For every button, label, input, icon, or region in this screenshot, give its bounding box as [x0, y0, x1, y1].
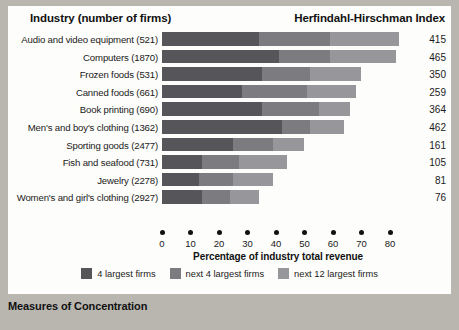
legend-4-largest: 4 largest firms [81, 268, 155, 279]
plot-area: Audio and video equipment (521)415Comput… [8, 32, 451, 224]
bar-segment [202, 155, 239, 169]
row-category-label: Audio and video equipment (521) [8, 34, 158, 45]
chart-row: Fish and seafood (731)105 [8, 155, 451, 173]
axis-tick-label: 10 [185, 238, 196, 249]
x-axis: Percentage of industry total revenue 010… [8, 230, 451, 264]
row-category-label: Men's and boy's clothing (1362) [8, 122, 158, 133]
row-category-label: Jewelry (2278) [8, 175, 158, 186]
bar-segment [162, 120, 282, 134]
chart-row: Computers (1870)465 [8, 50, 451, 68]
stacked-bar [162, 155, 287, 169]
axis-tick-label: 20 [214, 238, 225, 249]
x-axis-title: Percentage of industry total revenue [162, 251, 394, 262]
axis-tick-label: 30 [242, 238, 253, 249]
chart-page: Industry (number of firms) Herfindahl-Hi… [0, 0, 459, 330]
stacked-bar [162, 138, 304, 152]
row-category-label: Frozen foods (531) [8, 69, 158, 80]
stacked-bar [162, 67, 361, 81]
axis-tick-dot [302, 230, 307, 235]
bar-segment [233, 138, 273, 152]
bar-segment [233, 173, 273, 187]
hhi-value: 364 [406, 104, 446, 115]
hhi-value: 76 [406, 192, 446, 203]
stacked-bar [162, 173, 273, 187]
axis-tick-label: 60 [328, 238, 339, 249]
row-category-label: Women's and girl's clothing (2927) [8, 192, 158, 203]
hhi-value: 350 [406, 69, 446, 80]
axis-tick-dot [160, 230, 165, 235]
hhi-value: 105 [406, 157, 446, 168]
legend-next-4-largest: next 4 largest firms [170, 268, 265, 279]
bar-segment [262, 102, 319, 116]
stacked-bar [162, 32, 399, 46]
bar-segment [162, 85, 242, 99]
axis-tick-dot [217, 230, 222, 235]
chart-row: Canned foods (661)259 [8, 85, 451, 103]
legend-swatch [81, 268, 92, 279]
row-category-label: Computers (1870) [8, 52, 158, 63]
stacked-bar [162, 190, 259, 204]
chart-legend: 4 largest firmsnext 4 largest firmsnext … [8, 268, 451, 279]
bar-segment [319, 102, 350, 116]
chart-row: Frozen foods (531)350 [8, 67, 451, 85]
bar-segment [310, 120, 344, 134]
bar-segment [202, 190, 231, 204]
axis-tick-label: 80 [385, 238, 396, 249]
hhi-value: 161 [406, 140, 446, 151]
hhi-value: 81 [406, 175, 446, 186]
axis-tick-dot [388, 230, 393, 235]
bar-segment [162, 32, 259, 46]
axis-tick-label: 50 [299, 238, 310, 249]
stacked-bar [162, 102, 350, 116]
bar-segment [162, 155, 202, 169]
chart-row: Women's and girl's clothing (2927)76 [8, 190, 451, 208]
bar-segment [262, 67, 310, 81]
hhi-value: 415 [406, 34, 446, 45]
chart-panel: Industry (number of firms) Herfindahl-Hi… [8, 6, 451, 294]
chart-row: Audio and video equipment (521)415 [8, 32, 451, 50]
industry-column-header: Industry (number of firms) [30, 12, 171, 24]
axis-tick-label: 0 [159, 238, 164, 249]
bar-segment [307, 85, 355, 99]
bar-segment [162, 50, 279, 64]
bar-segment [330, 50, 396, 64]
bar-segment [162, 67, 262, 81]
bar-segment [230, 190, 259, 204]
row-category-label: Book printing (690) [8, 104, 158, 115]
axis-tick-dot [274, 230, 279, 235]
bar-segment [162, 173, 199, 187]
bar-segment [242, 85, 308, 99]
legend-swatch [170, 268, 181, 279]
axis-tick-dot [188, 230, 193, 235]
row-category-label: Canned foods (661) [8, 87, 158, 98]
bar-segment [259, 32, 330, 46]
legend-next-12-largest: next 12 largest firms [278, 268, 378, 279]
chart-row: Sporting goods (2477)161 [8, 138, 451, 156]
row-category-label: Fish and seafood (731) [8, 157, 158, 168]
bar-segment [330, 32, 398, 46]
legend-swatch [278, 268, 289, 279]
stacked-bar [162, 120, 344, 134]
bar-segment [239, 155, 287, 169]
bar-segment [162, 102, 262, 116]
axis-tick-dot [359, 230, 364, 235]
legend-label: next 12 largest firms [294, 269, 378, 279]
hhi-column-header: Herfindahl-Hirschman Index [294, 12, 445, 24]
chart-row: Men's and boy's clothing (1362)462 [8, 120, 451, 138]
stacked-bar [162, 85, 356, 99]
chart-row: Book printing (690)364 [8, 102, 451, 120]
bar-segment [279, 50, 330, 64]
row-category-label: Sporting goods (2477) [8, 140, 158, 151]
axis-tick-dot [245, 230, 250, 235]
figure-caption: Measures of Concentration [8, 300, 147, 312]
axis-tick-label: 40 [271, 238, 282, 249]
bar-segment [282, 120, 311, 134]
chart-row: Jewelry (2278)81 [8, 173, 451, 191]
stacked-bar [162, 50, 396, 64]
axis-tick-label: 70 [356, 238, 367, 249]
hhi-value: 465 [406, 52, 446, 63]
legend-label: next 4 largest firms [186, 269, 265, 279]
legend-label: 4 largest firms [97, 269, 155, 279]
bar-segment [310, 67, 361, 81]
bar-segment [199, 173, 233, 187]
